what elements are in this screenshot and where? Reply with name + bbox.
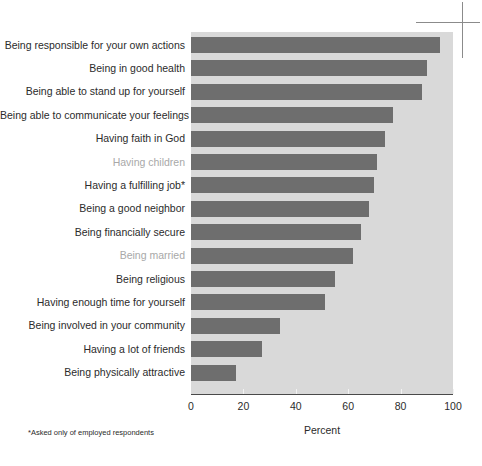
bar xyxy=(191,154,377,170)
category-label: Being financially secure xyxy=(0,221,185,244)
bar xyxy=(191,177,374,193)
category-label: Being responsible for your own actions xyxy=(0,34,185,57)
category-label: Being able to stand up for yourself xyxy=(0,80,185,103)
bar-chart-figure: Being responsible for your own actionsBe… xyxy=(0,0,482,466)
x-axis-tick-labels: 020406080100 xyxy=(0,400,482,416)
category-label: Having a fulfilling job* xyxy=(0,174,185,197)
plot-area xyxy=(191,32,453,394)
bar xyxy=(191,201,369,217)
category-label: Being physically attractive xyxy=(0,361,185,384)
x-axis-tick-label: 100 xyxy=(433,400,473,412)
bar xyxy=(191,294,325,310)
bar xyxy=(191,341,262,357)
chart-footnote: *Asked only of employed respondents xyxy=(28,428,154,437)
bar xyxy=(191,248,353,264)
category-label: Being religious xyxy=(0,268,185,291)
bar xyxy=(191,107,393,123)
category-label: Having faith in God xyxy=(0,127,185,150)
x-axis-tick-label: 60 xyxy=(328,400,368,412)
category-label: Having a lot of friends xyxy=(0,338,185,361)
category-label: Being a good neighbor xyxy=(0,197,185,220)
category-label: Being involved in your community xyxy=(0,314,185,337)
bar xyxy=(191,131,385,147)
x-axis-tick-label: 80 xyxy=(381,400,421,412)
x-axis-tick-label: 0 xyxy=(171,400,211,412)
category-label: Being married xyxy=(0,244,185,267)
category-label: Being able to communicate your feelings xyxy=(0,104,185,127)
bar xyxy=(191,84,422,100)
category-label: Having children xyxy=(0,151,185,174)
bar xyxy=(191,60,427,76)
category-label: Having enough time for yourself xyxy=(0,291,185,314)
x-axis-tick xyxy=(401,389,402,394)
crop-mark-horizontal-line xyxy=(416,22,480,23)
category-axis-labels: Being responsible for your own actionsBe… xyxy=(0,32,185,394)
bar xyxy=(191,365,236,381)
bar xyxy=(191,318,280,334)
bar xyxy=(191,224,361,240)
crop-mark-vertical-line xyxy=(462,2,463,58)
x-axis-tick-label: 20 xyxy=(223,400,263,412)
x-axis-tick xyxy=(243,389,244,394)
category-label: Being in good health xyxy=(0,57,185,80)
x-axis-tick xyxy=(348,389,349,394)
bar xyxy=(191,37,440,53)
x-axis-title: Percent xyxy=(191,424,453,436)
x-axis-tick xyxy=(296,389,297,394)
x-axis-tick xyxy=(453,389,454,394)
x-axis-baseline xyxy=(191,394,453,395)
bar xyxy=(191,271,335,287)
x-axis-tick-label: 40 xyxy=(276,400,316,412)
